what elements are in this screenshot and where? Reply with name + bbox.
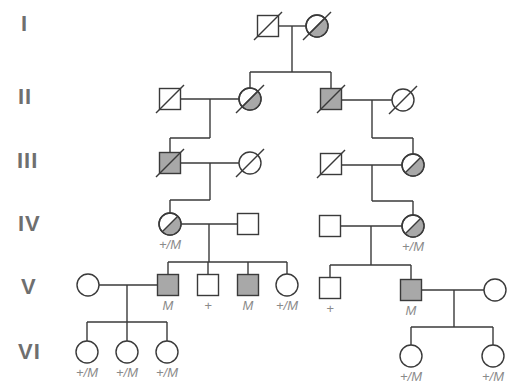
individual-female-unaffected [389, 86, 417, 114]
generation-label-1: I [21, 11, 28, 37]
individual-female-unaffected [482, 345, 504, 367]
genotype-label: +/M [159, 237, 181, 252]
female-circle-icon [400, 345, 422, 367]
individual-female-half [303, 12, 331, 40]
pedigree-chart: I II III IV V VI +/M+/MM+M+/M+M+/M+/M+/M… [0, 0, 518, 392]
genotype-label: +/M [482, 369, 504, 384]
male-square-icon [238, 275, 259, 296]
individual-female-unaffected [236, 149, 264, 177]
individual-female-unaffected [77, 274, 99, 296]
genotype-label: +/M [116, 365, 138, 380]
male-square-icon [198, 275, 219, 296]
generation-label-3: III [17, 148, 38, 174]
individual-female-unaffected [116, 341, 138, 363]
individual-male-unaffected [320, 278, 341, 299]
generation-label-5: V [21, 274, 37, 300]
female-circle-icon [116, 341, 138, 363]
individual-male-affected [401, 280, 422, 301]
generation-label-2: II [18, 84, 32, 110]
generation-label-4: IV [18, 211, 41, 237]
genotype-label: M [163, 298, 174, 313]
male-square-icon [401, 280, 422, 301]
individual-male-affected [156, 149, 184, 177]
male-square-icon [320, 216, 341, 237]
genotype-label: M [406, 303, 417, 318]
individual-male-unaffected [320, 216, 341, 237]
individual-male-unaffected [198, 275, 219, 296]
pedigree-svg [0, 0, 518, 392]
individual-male-affected [158, 275, 179, 296]
individual-female-unaffected [484, 279, 506, 301]
genotype-label: +/M [400, 369, 422, 384]
genotype-label: +/M [276, 298, 298, 313]
female-circle-icon [276, 274, 298, 296]
individual-female-half [236, 85, 264, 113]
individual-female-half [159, 213, 181, 235]
individual-male-unaffected [238, 214, 259, 235]
individual-male-unaffected [156, 85, 184, 113]
female-circle-icon [76, 341, 98, 363]
individual-male-unaffected [317, 150, 345, 178]
generation-label-6: VI [18, 339, 41, 365]
genotype-label: +/M [402, 239, 424, 254]
female-circle-icon [156, 341, 178, 363]
individual-female-unaffected [276, 274, 298, 296]
individual-male-affected [238, 275, 259, 296]
individual-female-unaffected [156, 341, 178, 363]
male-square-icon [158, 275, 179, 296]
genotype-label: M [243, 298, 254, 313]
female-circle-icon [77, 274, 99, 296]
female-circle-icon [482, 345, 504, 367]
genotype-label: + [326, 301, 334, 316]
genotype-label: +/M [156, 365, 178, 380]
individual-female-half [402, 154, 424, 176]
male-square-icon [238, 214, 259, 235]
genotype-label: + [204, 298, 212, 313]
individual-male-affected [317, 85, 345, 113]
genotype-label: +/M [76, 365, 98, 380]
individual-female-unaffected [76, 341, 98, 363]
individual-female-half [402, 215, 424, 237]
female-circle-icon [484, 279, 506, 301]
male-square-icon [320, 278, 341, 299]
individual-female-unaffected [400, 345, 422, 367]
individual-male-unaffected [254, 12, 282, 40]
